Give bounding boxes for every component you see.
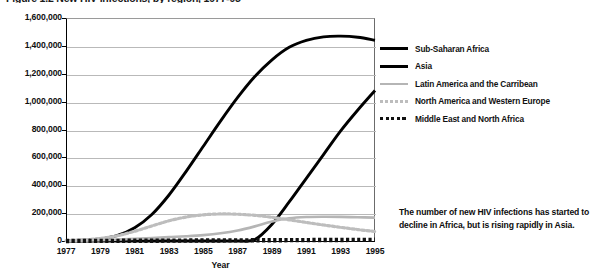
legend-swatch-icon (380, 113, 408, 124)
legend-item-label: Sub-Saharan Africa (415, 44, 489, 54)
legend-item-1[interactable]: Sub-Saharan Africa (380, 40, 595, 58)
legend-swatch-icon (380, 61, 408, 72)
legend-item-5[interactable]: Middle East and North Africa (380, 110, 595, 128)
legend-item-label: Asia (415, 61, 432, 71)
y-axis-tick-label: 200,000 (2, 207, 62, 217)
legend-item-3[interactable]: Latin America and the Carribean (380, 75, 595, 93)
legend-swatch-icon (380, 43, 408, 54)
legend-item-label: Middle East and North Africa (415, 114, 524, 124)
legend-item-label: North America and Western Europe (415, 96, 550, 106)
y-axis-tick-label: 1,600,000 (2, 12, 62, 22)
y-axis-tick-label: 1,200,000 (2, 68, 62, 78)
y-axis: 1,600,0001,400,0001,200,0001,000,000800,… (0, 0, 62, 276)
legend-item-4[interactable]: North America and Western Europe (380, 93, 595, 111)
y-axis-tick-label: 400,000 (2, 179, 62, 189)
y-axis-tick-label: 0 (2, 235, 62, 245)
page-title: Figure 1.2 New HIV infections, by region… (6, 0, 426, 3)
legend-item-2[interactable]: Asia (380, 58, 595, 76)
y-axis-tick-label: 1,400,000 (2, 40, 62, 50)
series-layer (66, 18, 375, 241)
y-axis-tick-label: 1,000,000 (2, 96, 62, 106)
annotation-callout: The number of new HIV infections has sta… (399, 206, 595, 231)
legend-swatch-icon (380, 78, 408, 89)
legend-item-label: Latin America and the Carribean (415, 79, 538, 89)
x-axis-tick-label: 1995 (353, 246, 397, 256)
series-line (66, 90, 375, 241)
series-line (66, 36, 375, 241)
y-axis-tick-label: 600,000 (2, 151, 62, 161)
legend: Sub-Saharan AfricaAsiaLatin America and … (380, 40, 595, 128)
hiv-infections-chart-figure: Figure 1.2 New HIV infections, by region… (0, 0, 599, 276)
y-axis-tick-label: 800,000 (2, 124, 62, 134)
legend-swatch-icon (380, 96, 408, 107)
x-axis-title: Year (66, 260, 375, 270)
